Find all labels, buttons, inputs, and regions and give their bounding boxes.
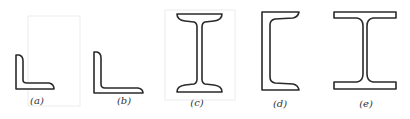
i-beam-section-c xyxy=(177,14,222,92)
label-b: (b) xyxy=(117,95,131,106)
angle-section-b xyxy=(94,52,143,93)
label-d: (d) xyxy=(273,98,287,109)
label-a: (a) xyxy=(30,95,44,106)
ghost-frame xyxy=(28,16,80,106)
sections-canvas xyxy=(0,0,410,119)
angle-section-a xyxy=(16,55,54,89)
wide-flange-section-e xyxy=(334,12,396,89)
channel-section-d xyxy=(262,12,299,90)
label-e: (e) xyxy=(359,98,373,109)
label-c: (c) xyxy=(190,97,203,108)
